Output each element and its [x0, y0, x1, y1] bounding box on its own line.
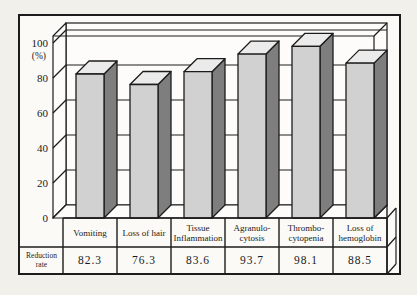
bar-1: [130, 71, 171, 218]
row-header-reduction-rate: Reduction rate: [20, 248, 63, 273]
category-cell-agranulocytosis: Agranulo- cytosis: [225, 219, 279, 247]
value-cell-vomiting: 82.3: [63, 248, 117, 273]
y-axis-tick-label: 0: [10, 211, 48, 225]
y-axis-tick-label: 20: [10, 176, 48, 190]
y-axis-tick-label: 40: [10, 141, 48, 155]
y-axis-tick-label: 60: [10, 106, 48, 120]
bar-2: [184, 59, 225, 218]
value-cell-loss-of-hair: 76.3: [117, 248, 171, 273]
category-cell-thrombocytopenia: Thrombo- cytopenia: [279, 219, 333, 247]
category-cell-vomiting: Vomiting: [63, 219, 117, 247]
bar-3: [238, 41, 279, 218]
category-cell-loss-of-hair: Loss of hair: [117, 219, 171, 247]
y-axis-unit-label: (%): [8, 50, 46, 62]
y-axis-tick-label: 100: [10, 36, 48, 50]
bar-4: [292, 33, 333, 218]
bar-0: [76, 61, 117, 218]
value-cell-loss-of-hemoglobin: 88.5: [333, 248, 387, 273]
category-cell-loss-of-hemoglobin: Loss of hemoglobin: [333, 219, 387, 247]
bar-5: [346, 50, 387, 218]
value-cell-tissue-inflammation: 83.6: [171, 248, 225, 273]
value-cell-agranulocytosis: 93.7: [225, 248, 279, 273]
category-cell-tissue-inflammation: Tissue Inflammation: [171, 219, 225, 247]
value-cell-thrombocytopenia: 98.1: [279, 248, 333, 273]
y-axis-tick-label: 80: [10, 71, 48, 85]
scanned-figure-page: { "chart_data": { "type": "bar", "style"…: [0, 0, 417, 295]
